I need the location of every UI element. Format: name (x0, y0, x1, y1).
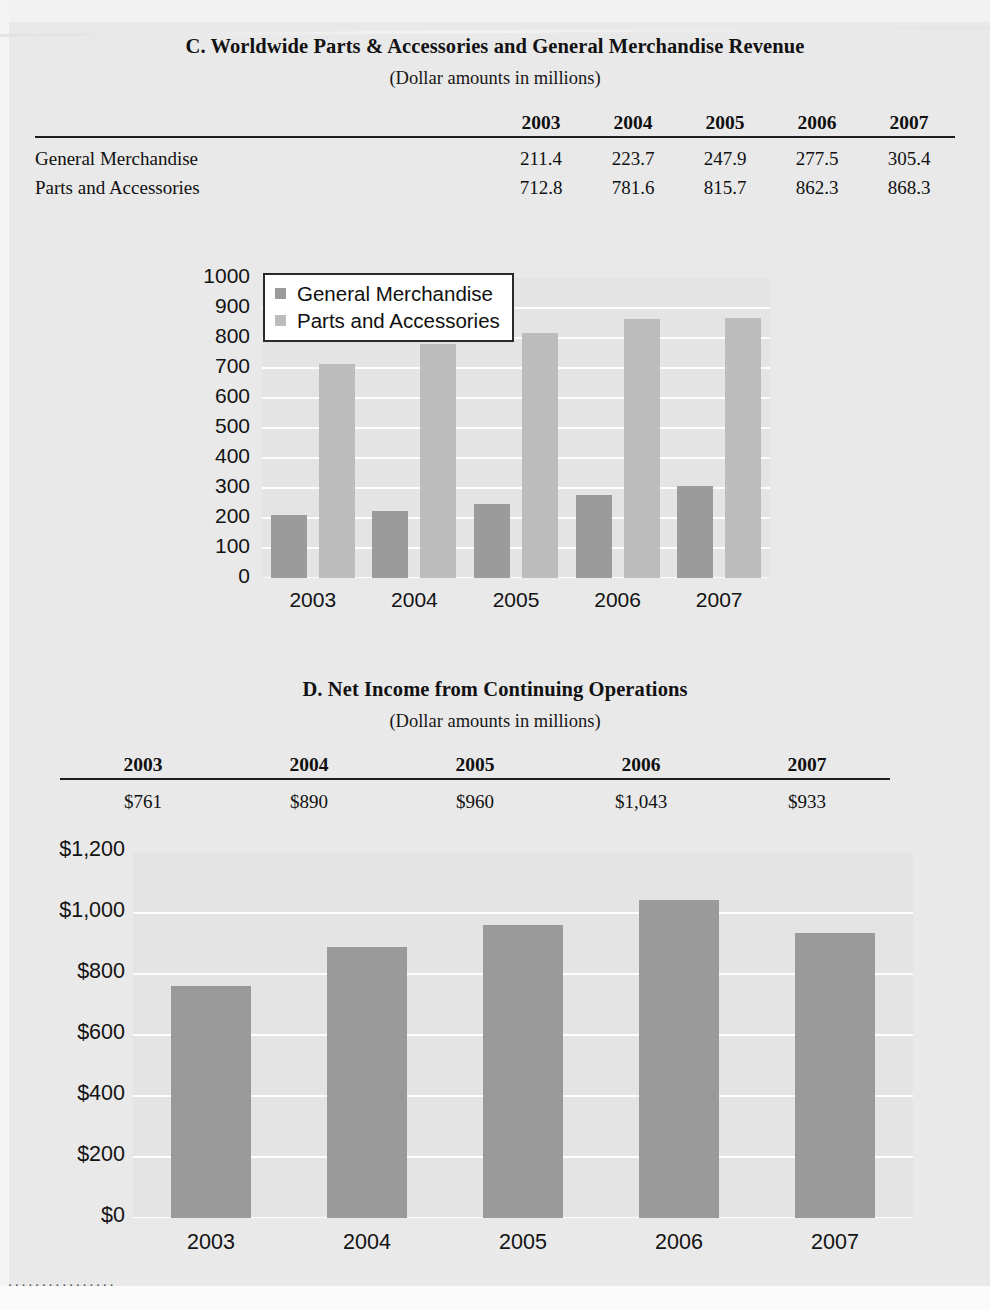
legend-swatch-icon (275, 315, 286, 326)
section-c-subtitle: (Dollar amounts in millions) (0, 68, 990, 89)
bar (171, 986, 251, 1218)
bar (420, 344, 456, 578)
x-axis-tick-label: 2005 (443, 1230, 603, 1255)
table-c-col-2007: 2007 (863, 104, 955, 137)
y-axis-tick-label: 500 (170, 414, 272, 438)
table-c-col-2006: 2006 (771, 104, 863, 137)
y-axis-tick-label: 200 (170, 504, 272, 528)
legend-item: General Merchandise (275, 280, 500, 307)
legend-item: Parts and Accessories (275, 307, 500, 334)
table-cell: 223.7 (587, 137, 679, 173)
x-axis-tick-label: 2007 (755, 1230, 915, 1255)
chart-c-legend: General Merchandise Parts and Accessorie… (263, 273, 514, 342)
table-c-col-2003: 2003 (495, 104, 587, 137)
y-axis-tick-label: 300 (170, 474, 272, 498)
table-cell: 781.6 (587, 173, 679, 202)
paper-top-strip (0, 0, 990, 22)
bar (372, 511, 408, 578)
table-row: General Merchandise 211.4 223.7 247.9 27… (35, 137, 955, 173)
y-axis-tick-label: $1,000 (15, 898, 147, 923)
y-axis-tick-label: $600 (15, 1020, 147, 1045)
y-axis-tick-label: 100 (170, 534, 272, 558)
bar (474, 504, 510, 578)
section-c-title: C. Worldwide Parts & Accessories and Gen… (0, 35, 990, 58)
y-axis-tick-label: $200 (15, 1142, 147, 1167)
bar (639, 900, 719, 1218)
y-axis-tick-label: 600 (170, 384, 272, 408)
legend-label: Parts and Accessories (297, 309, 500, 333)
bar (677, 486, 713, 578)
y-axis-tick-label: 700 (170, 354, 272, 378)
x-axis-tick-label: 2004 (287, 1230, 447, 1255)
table-cell: 305.4 (863, 137, 955, 173)
bar (327, 947, 407, 1218)
table-cell: 862.3 (771, 173, 863, 202)
table-d-col-2005: 2005 (392, 745, 558, 780)
x-axis-tick-label: 2003 (131, 1230, 291, 1255)
bar (483, 925, 563, 1218)
table-d-col-2006: 2006 (558, 745, 724, 780)
y-axis-tick-label: 0 (170, 564, 272, 588)
y-axis-tick-label: $400 (15, 1081, 147, 1106)
table-c-row-label-header (35, 104, 495, 137)
table-c: 2003 2004 2005 2006 2007 General Merchan… (35, 104, 955, 202)
table-cell: $1,043 (558, 780, 724, 818)
y-axis-tick-label: $1,200 (15, 837, 147, 862)
table-d-header-row: 2003 2004 2005 2006 2007 (60, 745, 890, 780)
y-axis-tick-label: $800 (15, 959, 147, 984)
chart-d-bar: $0$200$400$600$800$1,000$1,2002003200420… (0, 830, 990, 1270)
section-d-title: D. Net Income from Continuing Operations (0, 678, 990, 701)
y-axis-tick-label: 400 (170, 444, 272, 468)
table-c-row-label: Parts and Accessories (35, 173, 495, 202)
table-cell: $960 (392, 780, 558, 818)
gridline (133, 912, 913, 914)
y-axis-tick-label: $0 (15, 1203, 147, 1228)
y-axis-tick-label: 900 (170, 294, 272, 318)
table-cell: $890 (226, 780, 392, 818)
bar (725, 318, 761, 578)
y-axis-tick-label: 800 (170, 324, 272, 348)
paper-bottom-strip (0, 1286, 990, 1310)
table-d-col-2007: 2007 (724, 745, 890, 780)
x-axis-tick-label: 2007 (659, 588, 779, 612)
legend-swatch-icon (275, 288, 286, 299)
x-axis-tick-label: 2006 (599, 1230, 759, 1255)
chart-d-plot-area (133, 852, 913, 1218)
table-d-col-2004: 2004 (226, 745, 392, 780)
table-cell: 211.4 (495, 137, 587, 173)
table-c-col-2005: 2005 (679, 104, 771, 137)
table-cell: 247.9 (679, 137, 771, 173)
table-row: Parts and Accessories 712.8 781.6 815.7 … (35, 173, 955, 202)
table-c-row-label: General Merchandise (35, 137, 495, 173)
table-row: $761 $890 $960 $1,043 $933 (60, 780, 890, 818)
table-cell: 277.5 (771, 137, 863, 173)
bar (522, 333, 558, 578)
table-c-header-row: 2003 2004 2005 2006 2007 (35, 104, 955, 137)
scanned-page: C. Worldwide Parts & Accessories and Gen… (0, 0, 990, 1310)
bar (576, 495, 612, 578)
y-axis-tick-label: 1000 (170, 264, 272, 288)
chart-c-grouped-bar: General Merchandise Parts and Accessorie… (0, 262, 990, 622)
table-cell: 868.3 (863, 173, 955, 202)
table-cell: $933 (724, 780, 890, 818)
page-bottom-dots: ................ (8, 1272, 116, 1289)
table-c-col-2004: 2004 (587, 104, 679, 137)
table-cell: 815.7 (679, 173, 771, 202)
bar (795, 933, 875, 1218)
bar (624, 319, 660, 578)
section-d-subtitle: (Dollar amounts in millions) (0, 711, 990, 732)
table-cell: $761 (60, 780, 226, 818)
bar (319, 364, 355, 578)
table-d: 2003 2004 2005 2006 2007 $761 $890 $960 … (60, 745, 890, 818)
table-d-col-2003: 2003 (60, 745, 226, 780)
bar (271, 515, 307, 578)
table-cell: 712.8 (495, 173, 587, 202)
legend-label: General Merchandise (297, 282, 493, 306)
